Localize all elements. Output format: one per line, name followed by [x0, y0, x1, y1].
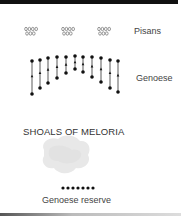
reserve-ship-dot: [76, 186, 79, 189]
pisan-ship-group: [25, 27, 38, 35]
genoese-ship-column: [116, 59, 120, 94]
genoese-ship-column: [108, 58, 112, 90]
genoese-label: Genoese: [136, 73, 173, 83]
genoese-ship-column: [30, 59, 34, 96]
genoese-ship-column: [46, 56, 50, 85]
genoese-ship-column: [38, 58, 42, 90]
pisan-fleet: [25, 27, 111, 35]
genoese-ship-column: [73, 54, 77, 71]
reserve-ship-dot: [86, 186, 89, 189]
reserve-ship-dot: [66, 186, 69, 189]
reserve-ship-dot: [71, 186, 74, 189]
genoese-ship-column: [55, 55, 59, 80]
genoese-reserve-label: Genoese reserve: [42, 195, 111, 205]
battle-of-meloria-diagram: Pisans Genoese SHOALS OF MELORIA Genoese…: [0, 0, 181, 216]
pisan-ship-group: [98, 27, 111, 35]
reserve-ship-dot: [91, 186, 94, 189]
genoese-ship-column: [90, 55, 94, 79]
shoals-label: SHOALS OF MELORIA: [23, 126, 124, 137]
genoese-ship-column: [64, 55, 68, 75]
reserve-ship-dot: [81, 186, 84, 189]
genoese-ship-column: [99, 56, 103, 84]
genoese-reserve-ships: [61, 186, 94, 189]
pisans-label: Pisans: [134, 26, 161, 36]
genoese-fleet: [30, 54, 120, 96]
shoals-of-meloria-area: [43, 135, 90, 173]
bottom-border: [0, 213, 181, 216]
pisan-ship-group: [62, 27, 75, 35]
genoese-ship-column: [81, 55, 85, 74]
reserve-ship-dot: [61, 186, 64, 189]
